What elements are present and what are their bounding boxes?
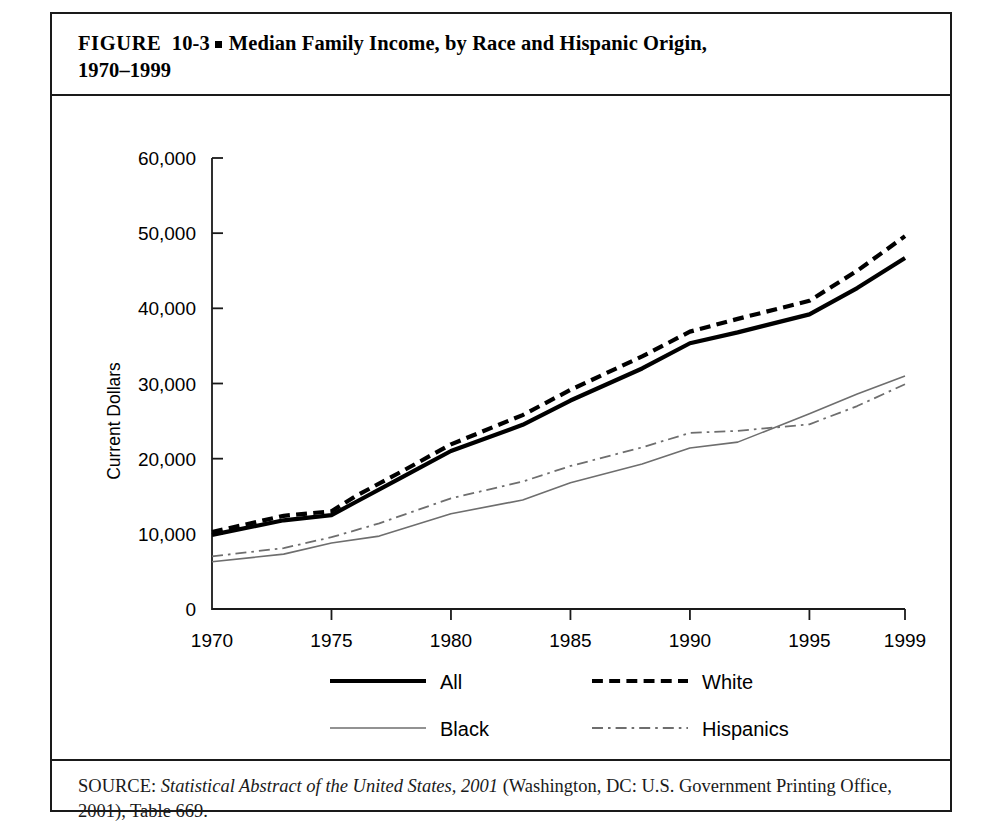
legend-label-hispanics: Hispanics — [702, 718, 789, 740]
x-tick-label: 1980 — [430, 630, 472, 651]
figure-number: 10-3 — [172, 32, 210, 54]
square-bullet-icon — [215, 41, 222, 48]
figure-label: FIGURE — [78, 32, 161, 54]
figure-container: FIGURE 10-3Median Family Income, by Race… — [50, 12, 952, 812]
figure-title-band: FIGURE 10-3Median Family Income, by Race… — [52, 14, 950, 96]
x-tick-label: 1995 — [788, 630, 830, 651]
y-tick-label: 60,000 — [138, 148, 196, 169]
series-line-black — [212, 376, 905, 562]
x-axis-ticks: 1970197519801985199019951999 — [191, 609, 926, 651]
legend-label-all: All — [440, 671, 462, 693]
y-tick-label: 50,000 — [138, 223, 196, 244]
y-tick-label: 40,000 — [138, 298, 196, 319]
chart-area: 010,00020,00030,00040,00050,00060,000 19… — [52, 96, 950, 759]
source-note: SOURCE: Statistical Abstract of the Unit… — [78, 774, 920, 822]
page-title: FIGURE 10-3Median Family Income, by Race… — [78, 30, 924, 84]
x-tick-label: 1975 — [310, 630, 352, 651]
figure-title-line2: 1970–1999 — [78, 59, 171, 81]
series-line-hispanics — [212, 384, 905, 556]
source-band: SOURCE: Statistical Abstract of the Unit… — [52, 759, 950, 810]
x-tick-label: 1999 — [884, 630, 926, 651]
y-tick-label: 30,000 — [138, 374, 196, 395]
source-prefix: SOURCE: — [78, 776, 156, 796]
chart-series-group — [212, 236, 905, 562]
y-axis-title: Current Dollars — [104, 362, 124, 480]
x-tick-label: 1990 — [669, 630, 711, 651]
legend-label-white: White — [702, 671, 753, 693]
y-tick-label: 20,000 — [138, 449, 196, 470]
x-tick-label: 1985 — [549, 630, 591, 651]
y-axis-ticks: 010,00020,00030,00040,00050,00060,000 — [138, 148, 223, 620]
figure-title-line1: Median Family Income, by Race and Hispan… — [229, 32, 707, 54]
line-chart: 010,00020,00030,00040,00050,00060,000 19… — [52, 96, 950, 759]
chart-legend: AllWhiteBlackHispanics — [330, 671, 789, 740]
y-tick-label: 0 — [185, 599, 196, 620]
series-line-all — [212, 258, 905, 535]
legend-label-black: Black — [440, 718, 490, 740]
x-tick-label: 1970 — [191, 630, 233, 651]
y-tick-label: 10,000 — [138, 524, 196, 545]
source-title: Statistical Abstract of the United State… — [161, 776, 498, 796]
